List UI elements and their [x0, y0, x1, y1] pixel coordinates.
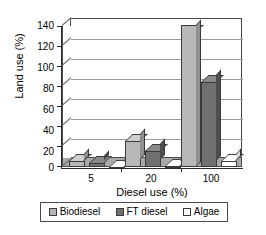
- bar-front-biodiesel-5: [69, 161, 85, 167]
- y-tick-0: [57, 166, 62, 167]
- legend-label-ft-diesel: FT diesel: [127, 207, 168, 217]
- y-tick-label-100: 100: [24, 63, 54, 73]
- legend-label-algae: Algae: [194, 207, 220, 217]
- gridline-100: [71, 59, 243, 60]
- y-tick-140: [57, 26, 62, 27]
- legend-item-ft-diesel: FT diesel: [116, 207, 168, 217]
- legend-item-algae: Algae: [183, 207, 220, 217]
- x-tick-label-100: 100: [191, 173, 231, 184]
- y-axis-tick-labels: 140 120 100 80 60 40 20 0: [22, 0, 54, 235]
- legend-swatch-icon-ft-diesel: [116, 208, 124, 216]
- legend-item-biodiesel: Biodiesel: [49, 207, 101, 217]
- y-tick-label-80: 80: [24, 84, 54, 94]
- legend-swatch-icon-algae: [183, 208, 191, 216]
- y-tick-label-0: 0: [24, 163, 54, 173]
- x-tick-1: [121, 168, 122, 172]
- bar-front-ft-diesel-5: [89, 163, 105, 167]
- plot-left-wall: [62, 26, 71, 166]
- y-tick-120: [57, 46, 62, 47]
- bar-front-ft-diesel-20: [145, 151, 161, 167]
- x-axis-title: Diesel use (%): [62, 186, 242, 198]
- y-tick-label-120: 120: [24, 42, 54, 52]
- y-tick-20: [57, 146, 62, 147]
- y-tick-80: [57, 86, 62, 87]
- bar-front-biodiesel-100: [181, 25, 197, 167]
- bar-front-ft-diesel-100: [201, 82, 217, 168]
- y-tick-label-20: 20: [24, 147, 54, 157]
- gridline-120: [71, 39, 243, 40]
- y-axis-line: [61, 26, 62, 169]
- y-tick-label-140: 140: [24, 21, 54, 31]
- plot-area: [62, 18, 242, 168]
- bar-front-algae-100: [221, 161, 237, 167]
- y-tick-100: [57, 66, 62, 67]
- x-tick-label-20: 20: [131, 173, 171, 184]
- chart-legend: Biodiesel FT diesel Algae: [40, 202, 228, 222]
- legend-label-biodiesel: Biodiesel: [60, 207, 101, 217]
- land-use-bar-chart: Land use (%) 140 120 100 80 60 40 20 0: [0, 0, 266, 235]
- y-tick-label-60: 60: [24, 105, 54, 115]
- y-tick-40: [57, 126, 62, 127]
- y-tick-label-40: 40: [24, 126, 54, 136]
- legend-swatch-icon-biodiesel: [49, 208, 57, 216]
- x-tick-2: [181, 168, 182, 172]
- y-tick-60: [57, 106, 62, 107]
- bar-side-ft-diesel-100: [216, 69, 221, 160]
- x-axis-line: [61, 168, 243, 169]
- x-tick-label-5: 5: [71, 173, 111, 184]
- bar-front-biodiesel-20: [125, 141, 141, 167]
